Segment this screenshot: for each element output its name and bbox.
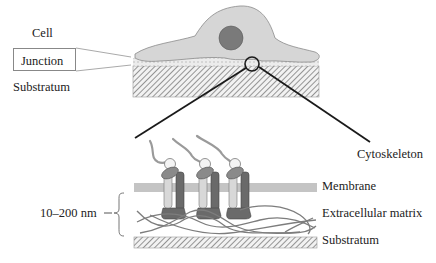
junction-label-box: Junction [13, 48, 76, 71]
label-cell: Cell [32, 27, 53, 40]
nucleus [219, 26, 243, 50]
label-extracellular-matrix: Extracellular matrix [322, 207, 422, 220]
distance-brace [114, 193, 124, 236]
actin-fibers [150, 136, 233, 164]
label-membrane: Membrane [322, 180, 376, 193]
label-cytoskeleton: Cytoskeleton [357, 148, 423, 161]
label-junction: Junction [21, 54, 63, 69]
junction-pointer-lower [76, 65, 131, 71]
substratum-block-bottom [134, 237, 317, 248]
membrane-band [134, 183, 317, 192]
label-substratum-bottom: Substratum [322, 234, 379, 247]
diagram-canvas [0, 0, 436, 263]
junction-pointer-upper [76, 48, 131, 57]
label-substratum-top: Substratum [13, 81, 70, 94]
label-distance: 10–200 nm [40, 207, 97, 220]
